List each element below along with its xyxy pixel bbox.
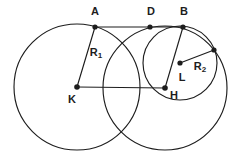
label-point-k: K xyxy=(68,93,76,105)
point-k-dot xyxy=(74,84,80,90)
point-l-dot xyxy=(177,60,182,65)
geometry-canvas: A D B K H L R1 R2 xyxy=(0,0,238,157)
label-point-h: H xyxy=(170,89,178,101)
point-a-dot xyxy=(92,24,97,29)
label-radius-1-base: R xyxy=(90,46,98,58)
geometry-figure: A D B K H L R1 R2 xyxy=(0,0,238,157)
label-radius-2-sub: 2 xyxy=(202,65,207,74)
point-d-dot xyxy=(147,24,152,29)
label-point-l: L xyxy=(179,71,186,83)
label-radius-2: R2 xyxy=(194,60,207,74)
label-radius-2-base: R xyxy=(194,60,202,72)
point-r2-end-dot xyxy=(211,47,216,52)
point-h-dot xyxy=(162,85,168,91)
label-point-b: B xyxy=(180,5,188,17)
point-b-dot xyxy=(180,24,185,29)
label-radius-1: R1 xyxy=(90,46,103,60)
label-point-d: D xyxy=(147,5,155,17)
label-radius-1-sub: 1 xyxy=(98,51,103,60)
label-point-a: A xyxy=(91,5,99,17)
